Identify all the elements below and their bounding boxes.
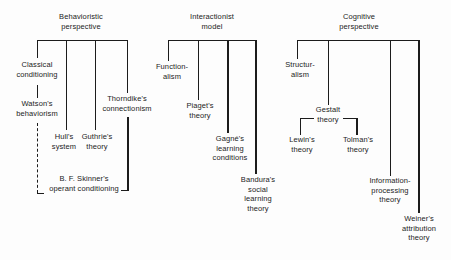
- node-guthries-theory: Guthrie's theory: [82, 132, 113, 151]
- node-gestalt-theory: Gestalt theory: [316, 105, 340, 124]
- learning-theories-concept-map: Behavioristic perspective Classical cond…: [0, 0, 451, 260]
- branch-line-cognitive: [297, 40, 420, 42]
- node-behavioristic-perspective: Behavioristic perspective: [59, 12, 103, 31]
- node-structuralism: Structur- alism: [285, 60, 315, 79]
- connector-classical: [37, 40, 39, 58]
- node-lewins-theory: Lewin's theory: [289, 135, 314, 154]
- connector-gagne: [227, 40, 229, 133]
- connector-hull: [66, 40, 68, 130]
- connector-functionalism: [168, 40, 170, 61]
- branch-line-interactionist: [168, 40, 257, 42]
- node-functionalism: Function- alism: [156, 62, 188, 81]
- node-gagnes-learning-conditions: Gagné's learning conditions: [213, 134, 248, 163]
- connector-bandura: [255, 40, 257, 174]
- connector-thorndike-skinner-foot: [121, 190, 129, 192]
- node-interactionist-model: Interactionist model: [190, 12, 234, 31]
- node-hulls-system: Hull's system: [52, 132, 76, 151]
- bracket-gestalt-tolman-v: [356, 118, 358, 135]
- connector-guthrie: [95, 40, 97, 130]
- node-thorndikes-connectionism: Thorndike's connectionism: [102, 94, 151, 113]
- node-skinner-operant-conditioning: B. F. Skinner's operant conditioning: [49, 174, 119, 193]
- node-information-processing-theory: Information- processing theory: [369, 176, 410, 205]
- bracket-gestalt-lewin-v: [300, 118, 302, 135]
- bracket-gestalt-lewin-h: [300, 118, 314, 120]
- connector-watson: [37, 85, 39, 98]
- node-classical-conditioning: Classical conditioning: [16, 60, 57, 79]
- connector-gestalt: [328, 40, 330, 105]
- connector-watson-skinner-dashed: [37, 123, 38, 193]
- connector-information-processing: [390, 40, 392, 176]
- connector-thorndike: [127, 40, 129, 93]
- connector-thorndike-skinner: [127, 117, 129, 191]
- connector-piaget: [198, 40, 200, 100]
- connector-structuralism: [297, 40, 299, 59]
- connector-watson-skinner-foot: [37, 193, 45, 195]
- node-cognitive-perspective: Cognitive perspective: [339, 12, 378, 31]
- connector-weiner: [418, 40, 420, 213]
- node-watsons-behaviorism: Watson's behaviorism: [16, 99, 58, 118]
- node-banduras-social-learning-theory: Bandura's social learning theory: [241, 175, 275, 213]
- node-piagets-theory: Piaget's theory: [186, 101, 213, 120]
- branch-line-behavioristic: [37, 40, 129, 42]
- node-weiners-attribution-theory: Weiner's attribution theory: [402, 214, 436, 243]
- node-tolmans-theory: Tolman's theory: [343, 135, 373, 154]
